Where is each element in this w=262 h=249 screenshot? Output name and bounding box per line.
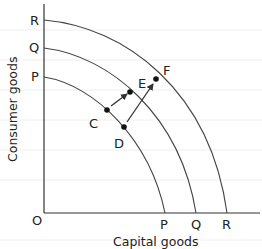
arrow-c-to-e xyxy=(111,94,127,106)
x-axis-title: Capital goods xyxy=(113,234,198,249)
point-label-c: C xyxy=(89,116,98,131)
x-label-p: P xyxy=(160,217,168,232)
diagram-svg: C D E F R Q P P Q R O Capital goods Cons… xyxy=(0,0,262,249)
point-label-f: F xyxy=(163,63,170,78)
ppf-curve-q xyxy=(44,48,196,213)
origin-label: O xyxy=(32,213,42,228)
y-axis-title: Consumer goods xyxy=(5,57,20,162)
point-label-d: D xyxy=(114,136,124,151)
ppf-diagram: C D E F R Q P P Q R O Capital goods Cons… xyxy=(0,0,262,249)
ppf-curve-p xyxy=(44,77,165,213)
point-c xyxy=(104,107,110,113)
ppf-curve-r xyxy=(44,20,227,213)
y-label-r: R xyxy=(30,13,39,28)
point-d xyxy=(121,124,127,130)
x-label-r: R xyxy=(222,217,231,232)
point-f xyxy=(153,76,159,82)
point-e xyxy=(127,89,133,95)
x-label-q: Q xyxy=(191,217,201,232)
y-label-q: Q xyxy=(29,40,39,55)
background-grid xyxy=(0,30,262,240)
point-label-e: E xyxy=(138,76,146,91)
y-label-p: P xyxy=(31,69,39,84)
